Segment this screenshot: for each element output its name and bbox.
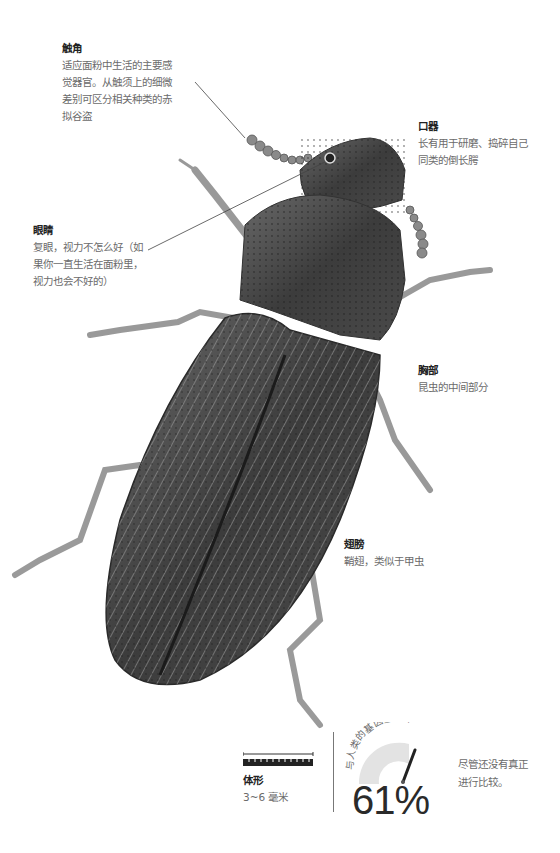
- gene-note: 尽管还没有真正 进行比较。: [458, 755, 528, 791]
- ruler-icon: [243, 752, 315, 768]
- eye: [325, 153, 335, 163]
- size-info: 体形 3~6 毫米: [243, 772, 289, 806]
- annotation-wings: 翅膀 鞘翅，类似于甲虫: [344, 536, 424, 570]
- annotation-title: 触角: [62, 40, 172, 57]
- annotation-eyes: 眼睛 复眼，视力不怎么好（如 果你一直生活在面粉里， 视力也会不好的）: [33, 222, 143, 290]
- size-scale: [243, 752, 315, 772]
- annotation-thorax: 胸部 昆虫的中间部分: [418, 362, 488, 396]
- gene-percent: 61%: [352, 778, 429, 823]
- annotation-mouthparts: 口器 长有用于研磨、捣碎自己 同类的倒长腭: [418, 118, 528, 169]
- divider: [333, 732, 334, 812]
- annotation-antenna: 触角 适应面粉中生活的主要感 觉器官。从触须上的细微 差别可区分相关种类的赤 拟…: [62, 40, 172, 125]
